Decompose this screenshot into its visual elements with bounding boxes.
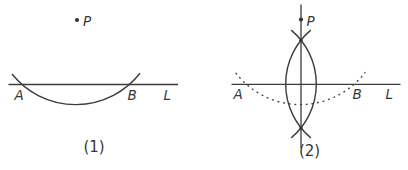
caption-panel1: (1) bbox=[83, 138, 104, 156]
panel-1: P A B L (1) bbox=[9, 13, 179, 156]
caption-panel2: (2) bbox=[299, 142, 320, 160]
intersection-dot-top bbox=[299, 39, 302, 42]
label-b-panel2: B bbox=[353, 86, 362, 102]
point-p-dot-panel1 bbox=[75, 18, 79, 22]
point-p-dot-panel2 bbox=[299, 17, 303, 21]
label-p-panel1: P bbox=[83, 13, 92, 29]
label-l-panel2: L bbox=[386, 86, 394, 102]
geometry-construction-figure: P A B L (1) P A B L (2) bbox=[0, 0, 408, 170]
intersection-dot-bottom bbox=[299, 126, 302, 129]
panel-2: P A B L (2) bbox=[232, 5, 401, 160]
label-l-panel1: L bbox=[164, 87, 172, 103]
label-p-panel2: P bbox=[307, 13, 316, 29]
arc-through-ab-panel1 bbox=[12, 73, 140, 104]
figure-canvas: P A B L (1) P A B L (2) bbox=[0, 0, 408, 170]
label-a-panel2: A bbox=[233, 86, 243, 102]
label-b-panel1: B bbox=[128, 87, 137, 103]
label-a-panel1: A bbox=[14, 87, 24, 103]
